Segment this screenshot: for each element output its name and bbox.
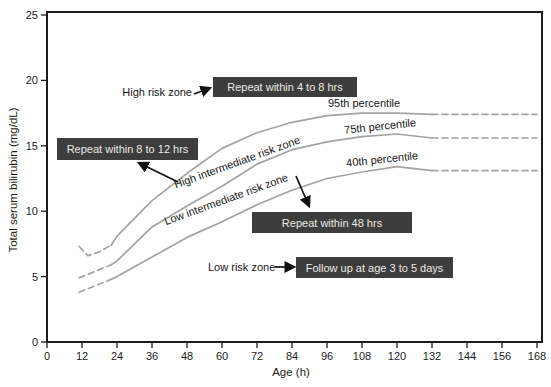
y-tick-label: 0 bbox=[32, 336, 38, 348]
x-tick-label: 24 bbox=[111, 350, 123, 362]
low-risk-zone-label: Low risk zone bbox=[208, 261, 275, 273]
y-tick-label: 10 bbox=[26, 205, 38, 217]
y-tick-label: 5 bbox=[32, 271, 38, 283]
y-tick-label: 20 bbox=[26, 74, 38, 86]
high-risk-zone-label: High risk zone bbox=[116, 86, 192, 98]
x-tick-label: 12 bbox=[76, 350, 88, 362]
repeat-48-hrs-box: Repeat within 48 hrs bbox=[252, 212, 412, 233]
y-axis-title: Total serum bilirubin (mg/dL) bbox=[6, 80, 20, 280]
curve-40th-percentile-dashed bbox=[79, 281, 108, 293]
curve-75th-percentile-dashed bbox=[79, 265, 111, 278]
x-tick-label: 120 bbox=[388, 350, 406, 362]
y-tick-label: 15 bbox=[26, 140, 38, 152]
x-tick-label: 108 bbox=[353, 350, 371, 362]
x-tick-label: 36 bbox=[146, 350, 158, 362]
repeat-4-8-hrs-box: Repeat within 4 to 8 hrs bbox=[213, 77, 357, 97]
curve-95th-percentile-dashed bbox=[79, 245, 111, 256]
x-tick-label: 48 bbox=[181, 350, 193, 362]
x-tick-label: 156 bbox=[493, 350, 511, 362]
percentile-95-label: 95th percentile bbox=[328, 97, 400, 109]
nomogram-chart-canvas: 0510152025012243648607284961081201321441… bbox=[0, 0, 551, 387]
x-tick-label: 132 bbox=[423, 350, 441, 362]
y-tick-label: 25 bbox=[26, 9, 38, 21]
x-tick-label: 72 bbox=[251, 350, 263, 362]
x-axis-title: Age (h) bbox=[241, 365, 341, 379]
x-tick-label: 60 bbox=[216, 350, 228, 362]
bilirubin-nomogram-figure: 0510152025012243648607284961081201321441… bbox=[0, 0, 551, 387]
x-tick-label: 0 bbox=[44, 350, 50, 362]
follow-up-box: Follow up at age 3 to 5 days bbox=[296, 257, 453, 278]
x-tick-label: 144 bbox=[458, 350, 476, 362]
repeat-48-arrow bbox=[296, 176, 309, 206]
x-tick-label: 84 bbox=[286, 350, 298, 362]
repeat-8-12-hrs-box: Repeat within 8 to 12 hrs bbox=[57, 138, 198, 160]
x-tick-label: 96 bbox=[321, 350, 333, 362]
x-tick-label: 168 bbox=[528, 350, 546, 362]
high-risk-zone-arrow bbox=[194, 88, 210, 94]
